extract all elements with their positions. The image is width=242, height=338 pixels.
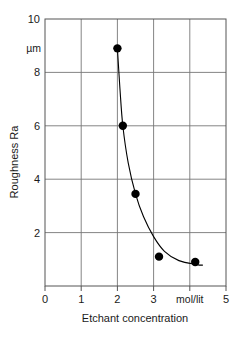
x-axis-tick-labels: 0123mol/lit5 <box>42 286 229 305</box>
x-axis-tick-label: 0 <box>42 293 48 305</box>
y-axis-tick-label: 6 <box>34 120 40 132</box>
data-point-marker <box>131 190 139 198</box>
y-axis-tick-label: 4 <box>34 173 40 185</box>
data-point-marker <box>113 44 121 52</box>
x-axis-tick-label: 2 <box>114 293 120 305</box>
data-point-marker <box>119 122 127 130</box>
chart-plot-svg: 246810 0123mol/lit5 µm Roughness Ra Etch… <box>0 0 242 338</box>
x-axis-unit-label: mol/lit <box>176 293 204 305</box>
y-axis-title: Roughness Ra <box>8 125 20 199</box>
x-axis-tick-label: 5 <box>223 293 229 305</box>
y-axis-unit-label: µm <box>26 42 41 54</box>
x-axis-title: Etchant concentration <box>82 312 188 324</box>
data-point-marker <box>155 252 163 260</box>
plot-area-border <box>45 19 226 286</box>
y-axis-tick-label: 10 <box>28 13 40 25</box>
data-point-marker <box>191 258 199 266</box>
y-axis-tick-label: 8 <box>34 66 40 78</box>
x-axis-tick-label: 1 <box>78 293 84 305</box>
x-axis-tick-label: 3 <box>151 293 157 305</box>
chart-figure: 246810 0123mol/lit5 µm Roughness Ra Etch… <box>0 0 242 338</box>
y-axis-tick-label: 2 <box>34 227 40 239</box>
gridlines-group <box>45 19 226 286</box>
